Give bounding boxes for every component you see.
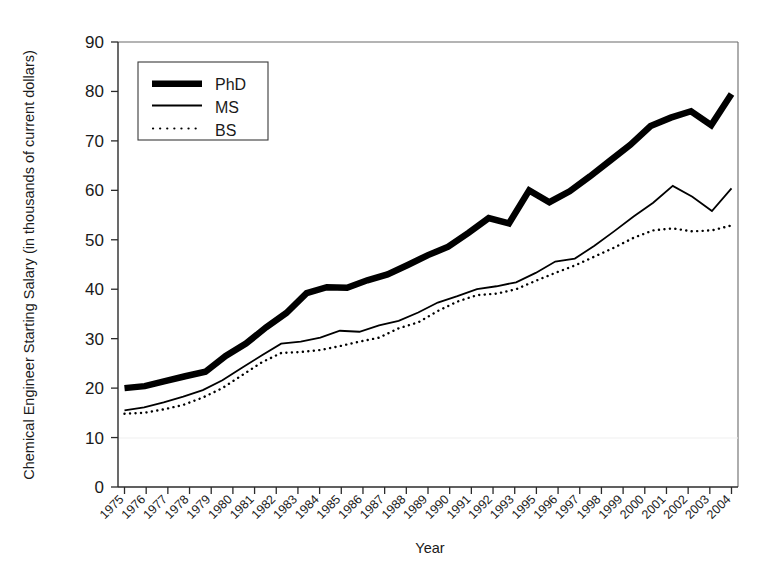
chart-figure: 0102030405060708090 19751976197719781979… (0, 0, 775, 576)
y-tick-label: 90 (85, 33, 104, 52)
y-tick-label: 60 (85, 181, 104, 200)
y-tick-label: 0 (95, 478, 104, 497)
y-tick-label: 10 (85, 429, 104, 448)
y-tick-label: 70 (85, 132, 104, 151)
chart-legend: PhD MS BS (138, 62, 268, 140)
y-tick-label: 40 (85, 280, 104, 299)
legend-label-bs: BS (215, 122, 236, 139)
thin-line-marker-icon (152, 105, 202, 107)
y-tick-label: 30 (85, 330, 104, 349)
chart-background (0, 0, 775, 576)
thick-line-marker-icon (152, 81, 202, 88)
y-tick-label: 80 (85, 82, 104, 101)
legend-label-phd: PhD (215, 76, 246, 93)
y-tick-label: 50 (85, 231, 104, 250)
legend-label-ms: MS (215, 99, 239, 116)
line-chart-canvas: 0102030405060708090 19751976197719781979… (0, 0, 775, 576)
y-tick-label: 20 (85, 379, 104, 398)
x-axis-title: Year (415, 540, 444, 556)
legend-box (138, 62, 268, 140)
y-axis-title: Chemical Engineer Starting Salary (in th… (21, 50, 37, 480)
